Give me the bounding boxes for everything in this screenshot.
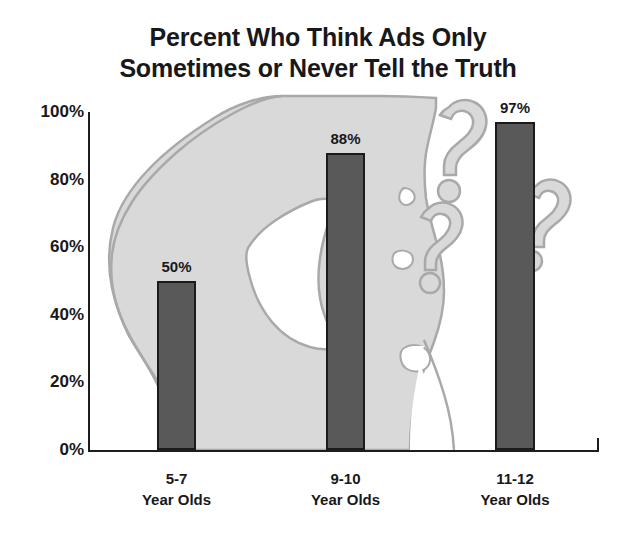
chart-title: Percent Who Think Ads Only Sometimes or … bbox=[0, 22, 636, 84]
x-category-9-10: 9-10 Year Olds bbox=[311, 468, 380, 510]
question-mark-medium bbox=[420, 203, 463, 293]
x-axis-line bbox=[88, 450, 599, 452]
y-tick-100: 100% bbox=[4, 102, 84, 122]
y-axis-ticks: 100% 80% 60% 40% 20% 0% bbox=[0, 0, 84, 540]
y-tick-20: 20% bbox=[4, 372, 84, 392]
bar-11-12[interactable] bbox=[495, 122, 535, 450]
question-mark-large bbox=[438, 100, 486, 202]
x-axis-end-tick bbox=[597, 438, 599, 452]
bar-9-10[interactable] bbox=[326, 153, 365, 450]
bar-5-7[interactable] bbox=[157, 281, 196, 450]
y-tick-40: 40% bbox=[4, 305, 84, 325]
bar-label-9-10: 88% bbox=[330, 130, 360, 147]
chart-figure: Percent Who Think Ads Only Sometimes or … bbox=[0, 0, 636, 540]
bar-label-5-7: 50% bbox=[161, 258, 191, 275]
y-tick-0: 0% bbox=[4, 440, 84, 460]
y-axis-line bbox=[88, 112, 90, 452]
y-tick-80: 80% bbox=[4, 170, 84, 190]
y-tick-60: 60% bbox=[4, 237, 84, 257]
x-category-11-12: 11-12 Year Olds bbox=[480, 468, 549, 510]
bar-label-11-12: 97% bbox=[500, 99, 530, 116]
x-category-5-7: 5-7 Year Olds bbox=[142, 468, 211, 510]
